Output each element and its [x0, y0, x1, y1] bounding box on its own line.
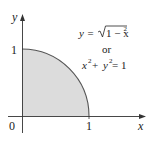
eq1-lhs: y =	[78, 27, 94, 39]
x-axis-label: x	[137, 119, 144, 133]
equation-line-1: y = 1 − x 2	[78, 25, 129, 39]
eq3-y: y	[102, 59, 108, 71]
y-axis-label: y	[11, 10, 18, 24]
y-tick-label-1: 1	[11, 43, 17, 57]
origin-label: 0	[9, 119, 15, 133]
quarter-circle-figure: y 1 0 1 x y = 1 − x 2 or x 2 + y 2 = 1	[0, 0, 153, 142]
eq3-rhs: = 1	[112, 59, 126, 71]
equation-line-2: or	[102, 43, 112, 55]
shaded-quarter-disk	[22, 49, 89, 116]
eq1-exp: 2	[124, 25, 128, 33]
eq3-plus: +	[92, 59, 98, 71]
equation-line-3: x 2 + y 2 = 1	[81, 57, 126, 71]
eq3-x: x	[81, 59, 87, 71]
y-axis-arrow-icon	[20, 14, 25, 21]
x-tick-label-1: 1	[86, 119, 92, 133]
